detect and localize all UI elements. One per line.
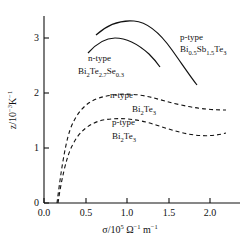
annotation-p-type-bisbte: p-type Bi0.5Sb1.5Te3 (180, 32, 226, 56)
formula3-te-sub: 3 (153, 109, 156, 116)
annotation-n-type-bitese: n-type Bi2Te2.7Se0.3 (78, 53, 124, 78)
x-tick-label-0: 0.0 (38, 207, 51, 218)
y-axis-title-exp: −3 (6, 105, 13, 112)
formula2-te: Te (90, 66, 99, 76)
formula-te-sub: 3 (223, 49, 226, 56)
x-tick-labels: 0.0 0.5 1.0 1.5 2.0 (38, 207, 217, 218)
formula4-te-sub: 3 (133, 136, 136, 143)
x-axis-title-unit1: Ω (126, 224, 133, 235)
x-axis-title-unit2-exp: −1 (151, 223, 158, 230)
x-axis-title-unit1-exp: −1 (134, 223, 141, 230)
ann-ptype-bite-line2: Bi2Te3 (112, 131, 136, 143)
formula-sb-sub: 1.5 (206, 49, 214, 56)
formula2-se: Se (107, 66, 116, 76)
ann-ptype-bisbte-line1: p-type (180, 32, 203, 42)
x-axis-title: σ/105 Ω−1 m−1 (102, 223, 157, 235)
x-tick-label-1: 0.5 (80, 207, 93, 218)
formula2-se-sub: 0.3 (116, 71, 124, 78)
formula-bi-sub: 0.5 (189, 49, 197, 56)
x-tick-label-3: 1.5 (163, 207, 176, 218)
y-tick-label-2: 2 (34, 87, 39, 98)
ann-ntype-bite-line1: n-type (110, 90, 133, 100)
y-axis-title: z/10−3K−1 (6, 91, 18, 129)
ann-ptype-bisbte-line2: Bi0.5Sb1.5Te3 (180, 44, 226, 56)
x-axis-title-symbol: σ/10 (102, 224, 120, 235)
curve-p-type-bite (58, 119, 226, 203)
x-tick-label-2: 1.0 (121, 207, 134, 218)
x-tick-label-4: 2.0 (204, 207, 217, 218)
y-tick-labels: 0 1 2 3 (34, 32, 39, 208)
x-axis-ticks (44, 198, 210, 203)
annotation-n-type-bite: n-type Bi2Te3 (110, 90, 156, 116)
y-axis-title-unit1-exp: −1 (6, 91, 13, 98)
y-tick-label-3: 3 (34, 32, 39, 43)
formula-te: Te (214, 44, 223, 54)
y-tick-label-1: 1 (34, 142, 39, 153)
ann-ptype-bite-line1: p-type (112, 117, 135, 127)
y-tick-label-0: 0 (34, 197, 39, 208)
formula4-te: Te (124, 131, 133, 141)
y-axis-title-symbol: z/10 (7, 112, 18, 129)
ann-ntype-bite-line2: Bi2Te3 (132, 104, 156, 116)
ann-ntype-bitese-line2: Bi2Te2.7Se0.3 (78, 66, 124, 78)
chart-canvas: 0.0 0.5 1.0 1.5 2.0 0 1 2 3 σ/105 Ω−1 m−… (0, 0, 249, 247)
formula3-te: Te (144, 104, 153, 114)
annotation-p-type-bite: p-type Bi2Te3 (112, 117, 136, 143)
ann-ntype-bitese-line1: n-type (88, 53, 111, 63)
y-axis-ticks (44, 38, 49, 203)
chart-figure: 0.0 0.5 1.0 1.5 2.0 0 1 2 3 σ/105 Ω−1 m−… (0, 0, 249, 247)
formula-sb: Sb (197, 44, 207, 54)
